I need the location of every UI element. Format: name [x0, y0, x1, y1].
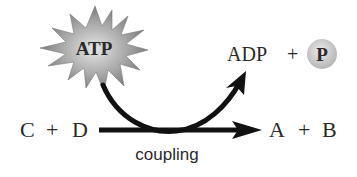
atp-label: ATP: [76, 38, 113, 59]
energy-transfer-arrow: [103, 71, 246, 131]
atp-starburst: ATP: [40, 6, 148, 92]
reactant-c: C: [20, 117, 35, 142]
product-b: B: [322, 117, 337, 142]
reactant-d: D: [72, 117, 88, 142]
plus-sign-top: +: [287, 43, 298, 65]
reactant-plus: +: [46, 117, 58, 142]
product-plus: +: [298, 117, 310, 142]
top-products: ADP + P: [227, 39, 337, 69]
coupled-reaction-diagram: ATP ADP + P C + D A + B: [0, 0, 357, 177]
products: A + B: [269, 117, 337, 142]
phosphate-label: P: [316, 44, 328, 65]
reaction-arrow: [99, 121, 262, 139]
product-a: A: [269, 117, 285, 142]
adp-label: ADP: [227, 43, 267, 65]
reactants: C + D: [20, 117, 88, 142]
coupling-label: coupling: [135, 145, 198, 164]
